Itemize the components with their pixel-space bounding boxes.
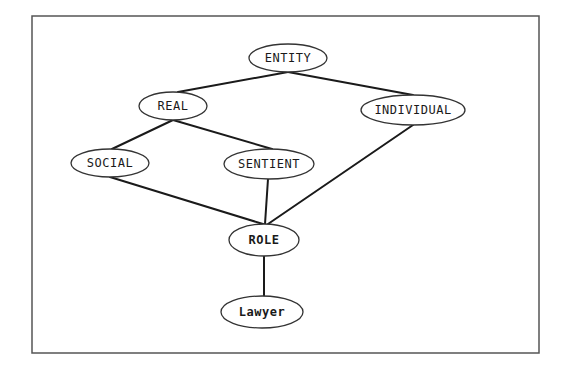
node-social-label: SOCIAL <box>87 156 133 170</box>
node-role-label: ROLE <box>249 233 280 247</box>
edge-real-sentient <box>173 120 272 149</box>
node-lawyer-label: Lawyer <box>239 305 285 319</box>
node-sentient: SENTIENT <box>224 149 314 179</box>
node-real-label: REAL <box>158 99 189 113</box>
node-individual-label: INDIVIDUAL <box>374 103 451 117</box>
node-sentient-label: SENTIENT <box>238 157 300 171</box>
node-individual: INDIVIDUAL <box>361 95 465 125</box>
edge-real-social <box>112 120 173 149</box>
node-entity-label: ENTITY <box>265 51 312 65</box>
node-entity: ENTITY <box>249 44 327 72</box>
node-real: REAL <box>139 92 207 120</box>
taxonomy-diagram: ENTITY REAL INDIVIDUAL SOCIAL SENTIENT R… <box>0 0 564 376</box>
edge-sentient-role <box>265 179 268 224</box>
edge-entity-real <box>178 72 288 92</box>
edge-entity-individual <box>288 72 413 95</box>
node-role: ROLE <box>229 224 299 256</box>
node-social: SOCIAL <box>71 149 149 177</box>
edge-social-role <box>110 177 263 224</box>
node-lawyer: Lawyer <box>221 296 303 328</box>
